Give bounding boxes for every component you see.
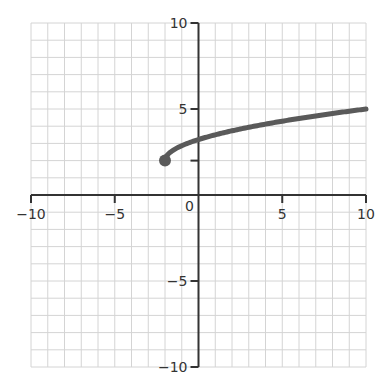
x-tick-label: 0 [185, 198, 194, 214]
x-tick-label: 10 [357, 206, 375, 222]
function-graph: −10−50510105−5−10 [0, 0, 386, 390]
start-point-dot [159, 155, 171, 167]
y-tick-label: 10 [170, 15, 188, 31]
y-tick-label: −5 [167, 273, 188, 289]
y-tick-label: 5 [179, 101, 188, 117]
y-tick-label: −10 [158, 359, 188, 375]
x-tick-label: −5 [104, 206, 125, 222]
x-tick-label: 5 [278, 206, 287, 222]
x-tick-label: −10 [16, 206, 46, 222]
